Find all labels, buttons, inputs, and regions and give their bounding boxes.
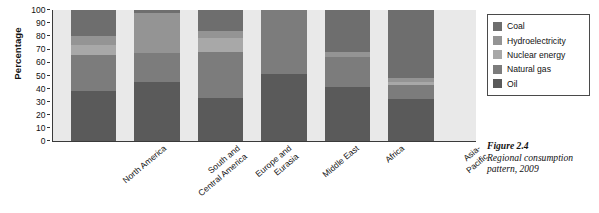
legend-label: Nuclear energy (507, 50, 565, 60)
y-tick-label: 60 (36, 57, 45, 67)
y-tick-mark (47, 62, 50, 63)
bar-segment-oil (261, 74, 307, 141)
bar-segment-natural-gas (134, 53, 180, 82)
y-tick-100: 100 (20, 5, 50, 15)
bar-segment-hydroelectricity (71, 36, 117, 45)
x-axis-label-1: South and Central America (190, 143, 250, 198)
bar-segment-hydroelectricity (134, 13, 180, 54)
table-row[interactable] (198, 10, 244, 141)
bar-gap (116, 10, 134, 141)
y-tick-mark (47, 75, 50, 76)
figure-number: Figure 2.4 (487, 140, 595, 152)
legend-swatch-icon (493, 22, 502, 31)
y-tick-mark (47, 35, 50, 36)
x-axis-label-2: Europe and Eurasia (253, 143, 300, 187)
y-tick-mark (47, 88, 50, 89)
legend-item-hydroelectricity[interactable]: Hydroelectricity (493, 33, 585, 47)
y-tick-mark (47, 101, 50, 102)
legend-item-coal[interactable]: Coal (493, 19, 585, 33)
y-tick-label: 20 (36, 110, 45, 120)
y-tick-mark (47, 127, 50, 128)
chart-legend: CoalHydroelectricityNuclear energyNatura… (487, 14, 590, 96)
bar-segment-coal (388, 10, 434, 78)
bar-segment-natural-gas (71, 55, 117, 92)
legend-label: Natural gas (507, 64, 551, 74)
y-tick-90: 90 (20, 18, 50, 28)
y-tick-label: 100 (31, 5, 45, 15)
x-axis-label-5: Asia-Pacific (452, 143, 489, 179)
y-tick-80: 80 (20, 31, 50, 41)
bar-segment-oil (325, 87, 371, 141)
bar-segment-nuclear-energy (71, 45, 117, 54)
legend-item-natural-gas[interactable]: Natural gas (493, 62, 585, 76)
bar-segment-natural-gas (325, 57, 371, 87)
legend-swatch-icon (493, 50, 502, 59)
legend-swatch-icon (493, 65, 502, 74)
legend-swatch-icon (493, 36, 502, 45)
bar-gap (307, 10, 325, 141)
y-tick-label: 0 (41, 136, 46, 146)
y-tick-30: 30 (20, 97, 50, 107)
figure-container: Percentage 1009080706050403020100 North … (0, 0, 599, 213)
y-tick-40: 40 (20, 84, 50, 94)
y-tick-mark (47, 140, 50, 141)
y-tick-label: 90 (36, 18, 45, 28)
y-axis-ticks: 1009080706050403020100 (20, 6, 50, 144)
bar-segment-oil (71, 91, 117, 141)
bar-segment-coal (71, 10, 117, 36)
y-tick-10: 10 (20, 123, 50, 133)
y-tick-60: 60 (20, 57, 50, 67)
figure-caption-text: Regional consumption pattern, 2009 (487, 152, 595, 175)
y-tick-mark (47, 114, 50, 115)
y-tick-mark (47, 22, 50, 23)
chart-plot-area: Percentage 1009080706050403020100 North … (0, 0, 480, 213)
bar-segment-oil (134, 82, 180, 141)
y-tick-0: 0 (20, 136, 50, 146)
x-axis-label-4: Africa (383, 143, 406, 165)
y-tick-label: 30 (36, 97, 45, 107)
x-axis-line (52, 141, 476, 142)
y-tick-70: 70 (20, 44, 50, 54)
bar-gap (243, 10, 261, 141)
y-tick-label: 50 (36, 71, 45, 81)
table-row[interactable] (134, 10, 180, 141)
bar-segment-oil (388, 99, 434, 141)
table-row[interactable] (71, 10, 117, 141)
x-axis-label-3: Middle East (321, 143, 362, 180)
y-tick-label: 70 (36, 44, 45, 54)
legend-item-oil[interactable]: Oil (493, 77, 585, 91)
legend-swatch-icon (493, 79, 502, 88)
figure-caption: Figure 2.4 Regional consumption pattern,… (487, 140, 595, 175)
bar-gap (370, 10, 388, 141)
y-tick-label: 10 (36, 123, 45, 133)
x-axis-label-0: North America (121, 143, 169, 186)
legend-label: Coal (507, 21, 525, 31)
y-tick-50: 50 (20, 71, 50, 81)
y-tick-20: 20 (20, 110, 50, 120)
table-row[interactable] (325, 10, 371, 141)
y-tick-label: 40 (36, 84, 45, 94)
bar-gap (180, 10, 198, 141)
bar-segment-natural-gas (261, 10, 307, 74)
bar-segment-oil (198, 98, 244, 141)
bar-segment-nuclear-energy (198, 38, 244, 52)
y-tick-mark (47, 49, 50, 50)
legend-label: Hydroelectricity (507, 36, 566, 46)
bar-segment-coal (198, 10, 244, 31)
y-tick-mark (47, 9, 50, 10)
bar-segment-natural-gas (388, 85, 434, 99)
y-tick-label: 80 (36, 31, 45, 41)
bar-segment-coal (325, 10, 371, 52)
bar-gap (434, 10, 452, 141)
table-row[interactable] (261, 10, 307, 141)
stacked-bars (53, 10, 476, 141)
x-axis-labels: North AmericaSouth and Central AmericaEu… (53, 143, 476, 211)
legend-item-nuclear-energy[interactable]: Nuclear energy (493, 48, 585, 62)
bar-segment-natural-gas (198, 52, 244, 98)
legend-label: Oil (507, 79, 518, 89)
bar-gap (53, 10, 71, 141)
table-row[interactable] (388, 10, 434, 141)
